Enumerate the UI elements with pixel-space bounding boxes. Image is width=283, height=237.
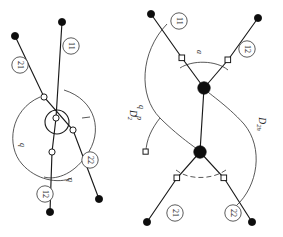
left-atom-label-22: 22 bbox=[82, 152, 98, 168]
right-bond-label-q-top: q bbox=[137, 105, 146, 109]
left-atom-label-21: 21 bbox=[12, 57, 28, 73]
left-terminal-atom-4 bbox=[95, 195, 102, 202]
right-bond-center-axis bbox=[200, 88, 204, 152]
left-label-21-text: 21 bbox=[16, 61, 25, 69]
right-angle-label-a: a bbox=[195, 50, 204, 54]
left-bond-label-q-lower: q bbox=[66, 178, 75, 182]
diagram-right-d2h: 11 12 21 22 a p q D2h bbox=[135, 10, 268, 225]
left-label-11-text: 11 bbox=[67, 42, 76, 50]
left-atom-label-12: 12 bbox=[37, 186, 53, 202]
right-atom-label-22: 22 bbox=[225, 205, 241, 221]
right-arc-tail bbox=[146, 118, 160, 152]
left-terminal-atom-3 bbox=[46, 208, 53, 215]
right-atom-label-12: 12 bbox=[239, 41, 255, 57]
right-label-21-text: 21 bbox=[171, 209, 180, 217]
right-terminal-atom-2 bbox=[254, 14, 261, 21]
left-label-12-text: 12 bbox=[41, 190, 50, 198]
left-bond-label-q-upper: q bbox=[18, 143, 27, 147]
left-outer-arc-lower bbox=[13, 97, 72, 181]
left-atom-label-11: 11 bbox=[63, 38, 79, 54]
right-atom-label-11: 11 bbox=[171, 13, 187, 29]
right-terminal-atom-1 bbox=[147, 10, 154, 17]
right-terminal-atom-3 bbox=[143, 218, 150, 225]
right-atom-label-21: 21 bbox=[167, 205, 183, 221]
figure-svg: 11 21 22 12 q q D2 bbox=[0, 0, 283, 237]
left-label-22-text: 22 bbox=[86, 156, 95, 164]
right-vertex-square-2 bbox=[225, 57, 231, 63]
diagram-left-d2: 11 21 22 12 q q D2 bbox=[11, 18, 138, 215]
right-node-atom-bottom bbox=[194, 146, 206, 158]
right-vertex-square-4 bbox=[221, 175, 227, 181]
left-vertex-open-2 bbox=[53, 115, 59, 121]
left-terminal-atom-1 bbox=[11, 32, 18, 39]
right-label-11-text: 11 bbox=[175, 17, 184, 25]
right-node-atom-top bbox=[198, 82, 210, 94]
left-vertex-open-4 bbox=[49, 149, 55, 155]
right-bond-label-p: p bbox=[135, 115, 144, 120]
left-tick-marker bbox=[82, 117, 90, 118]
right-symmetry-label: D2h bbox=[256, 116, 267, 130]
left-terminal-atom-2 bbox=[58, 18, 65, 25]
right-vertex-square-3 bbox=[174, 175, 180, 181]
right-terminal-atom-4 bbox=[248, 218, 255, 225]
symmetry-figure-canvas: 11 21 22 12 q q D2 bbox=[0, 0, 283, 237]
right-label-22-text: 22 bbox=[229, 209, 238, 217]
right-symmetry-label-text: D2h bbox=[256, 116, 267, 130]
left-vertex-open-1 bbox=[41, 94, 47, 100]
right-vertex-square-tail bbox=[143, 149, 148, 154]
right-arc-upper-sweep bbox=[145, 24, 200, 152]
right-label-12-text: 12 bbox=[243, 45, 252, 53]
right-vertex-square-1 bbox=[179, 55, 185, 61]
left-vertex-open-3 bbox=[70, 127, 76, 133]
